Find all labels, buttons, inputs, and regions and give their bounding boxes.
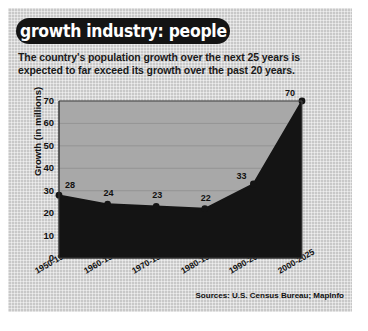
data-point-label: 22 xyxy=(201,193,211,203)
data-point-marker xyxy=(250,181,257,188)
data-point-label: 23 xyxy=(152,190,162,200)
plot-area xyxy=(8,8,352,312)
data-point-label: 24 xyxy=(104,188,114,198)
data-point-marker xyxy=(153,203,160,210)
area-chart: Growth (in millions) 010203040506070 195… xyxy=(8,8,352,312)
data-point-label: 70 xyxy=(285,88,295,98)
infographic-panel: growth industry: people The country's po… xyxy=(8,8,352,312)
sources-note: Sources: U.S. Census Bureau; MapInfo xyxy=(196,291,344,300)
data-point-marker xyxy=(104,201,111,208)
data-point-label: 28 xyxy=(65,180,75,190)
data-point-label: 33 xyxy=(236,171,246,181)
data-point-marker xyxy=(201,205,208,212)
